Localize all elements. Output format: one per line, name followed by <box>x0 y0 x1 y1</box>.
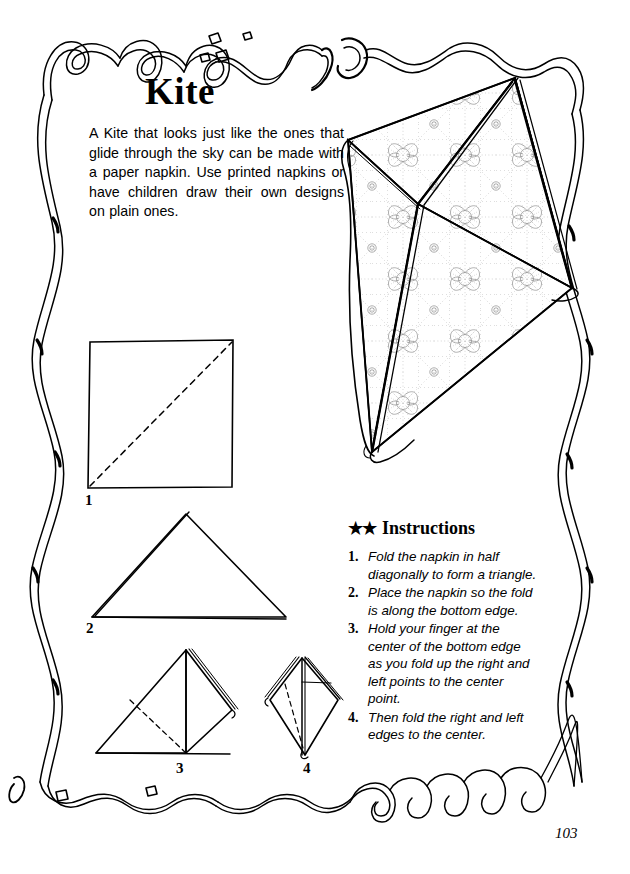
kite-illustration <box>342 78 578 462</box>
step-description: Fold the napkin in half diagonally to fo… <box>368 548 538 583</box>
step-description: Then fold the right and left edges to th… <box>368 709 538 744</box>
step-3-diagram <box>96 649 238 754</box>
confetti-pieces <box>200 32 252 62</box>
page-title: Kite <box>0 70 360 113</box>
step-description: Place the napkin so the fold is along th… <box>368 584 538 619</box>
step-1-diagram <box>88 340 233 488</box>
instructions-heading: ★★Instructions <box>348 518 538 539</box>
list-item: 1. Fold the napkin in half diagonally to… <box>348 548 538 583</box>
step-4-label: 4 <box>303 760 311 777</box>
intro-paragraph: A Kite that looks just like the ones tha… <box>89 124 344 222</box>
border-left-ribbon <box>30 95 64 786</box>
step-number: 3. <box>348 620 368 638</box>
step-description: Hold your finger at the center of the bo… <box>368 620 538 708</box>
page-number: 103 <box>555 825 578 842</box>
instructions-heading-text: Instructions <box>382 518 475 538</box>
step-3-label: 3 <box>176 760 184 777</box>
page-canvas: Kite A Kite that looks just like the one… <box>0 0 630 874</box>
star-rating-icon: ★★ <box>348 519 376 538</box>
step-number: 4. <box>348 709 368 727</box>
instructions-section: ★★Instructions 1. Fold the napkin in hal… <box>348 518 538 745</box>
step-number: 2. <box>348 584 368 602</box>
list-item: 3. Hold your finger at the center of the… <box>348 620 538 708</box>
step-4-diagram <box>265 657 343 759</box>
step-2-label: 2 <box>86 620 94 637</box>
list-item: 4. Then fold the right and left edges to… <box>348 709 538 744</box>
border-right-ribbon <box>558 110 592 786</box>
instructions-list: 1. Fold the napkin in half diagonally to… <box>348 548 538 744</box>
step-2-diagram <box>92 512 286 619</box>
list-item: 2. Place the napkin so the fold is along… <box>348 584 538 619</box>
step-1-label: 1 <box>85 492 93 509</box>
step-number: 1. <box>348 548 368 566</box>
